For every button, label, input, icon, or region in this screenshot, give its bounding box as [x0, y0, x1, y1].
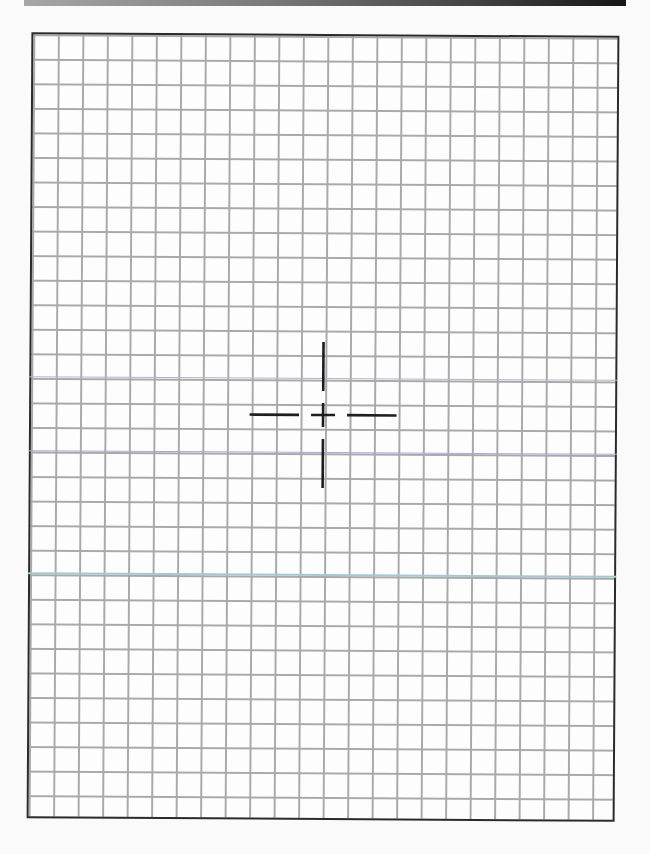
crosshair-icon: [27, 32, 620, 822]
header-gradient-bar: [24, 0, 626, 6]
grid-area: [27, 32, 620, 822]
grid-sheet-page: [0, 0, 650, 854]
